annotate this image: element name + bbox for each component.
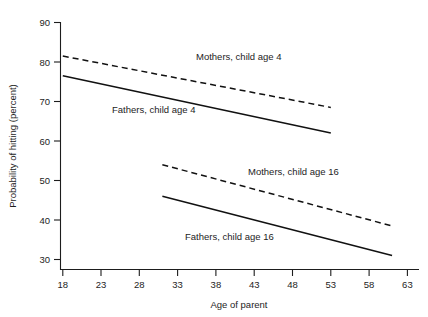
annotation-mothers-child-age-16: Mothers, child age 16: [248, 166, 339, 177]
x-tick-label-28: 28: [134, 279, 145, 290]
x-tick-label-63: 63: [402, 279, 413, 290]
x-tick-label-18: 18: [58, 279, 69, 290]
y-tick-label-90: 90: [39, 17, 50, 28]
y-tick-label-40: 40: [39, 215, 50, 226]
x-tick-label-58: 58: [364, 279, 375, 290]
series-line-mothers-child-age-4: [63, 56, 331, 107]
line-chart: 90 80 70 60 50 40 30 Probability of hitt…: [0, 0, 428, 317]
annotation-mothers-child-age-4: Mothers, child age 4: [196, 51, 282, 62]
x-tick-label-53: 53: [326, 279, 337, 290]
x-tick-label-38: 38: [211, 279, 222, 290]
x-tick-label-23: 23: [96, 279, 107, 290]
series-annotations: Mothers, child age 4 Fathers, child age …: [112, 51, 339, 242]
annotation-fathers-child-age-16: Fathers, child age 16: [185, 231, 274, 242]
x-tick-label-43: 43: [249, 279, 260, 290]
y-tick-label-80: 80: [39, 57, 50, 68]
x-axis: 18 23 28 33 38 43 48 53 58 63 Age of par…: [58, 270, 419, 311]
x-tick-label-48: 48: [287, 279, 298, 290]
x-axis-title: Age of parent: [210, 299, 267, 310]
y-tick-label-50: 50: [39, 175, 50, 186]
chart-figure: 90 80 70 60 50 40 30 Probability of hitt…: [0, 0, 428, 317]
series-line-fathers-child-age-16: [162, 196, 392, 255]
y-tick-label-70: 70: [39, 96, 50, 107]
y-tick-label-60: 60: [39, 136, 50, 147]
series-line-fathers-child-age-4: [63, 76, 331, 133]
annotation-fathers-child-age-4: Fathers, child age 4: [112, 104, 195, 115]
y-tick-label-30: 30: [39, 254, 50, 265]
y-axis-title: Probability of hitting (percent): [7, 84, 18, 208]
y-axis: 90 80 70 60 50 40 30 Probability of hitt…: [7, 17, 61, 270]
series-layer: [63, 56, 392, 255]
x-tick-label-33: 33: [172, 279, 183, 290]
